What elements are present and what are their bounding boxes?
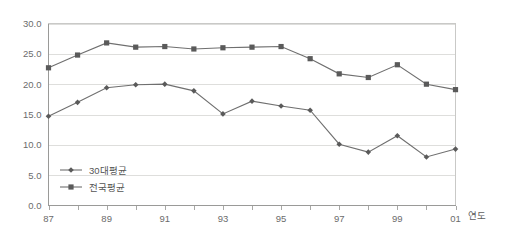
data-point-marker: [366, 75, 371, 80]
data-point-marker: [162, 44, 167, 49]
data-series: [46, 40, 459, 159]
data-point-marker: [249, 45, 254, 50]
data-point-marker: [337, 71, 342, 76]
y-tick-label: 10.0: [23, 139, 42, 150]
legend-marker-diamond: [68, 167, 74, 173]
chart-legend: 30대평균전국평균: [60, 165, 127, 193]
data-point-marker: [133, 82, 139, 88]
data-point-marker: [424, 82, 429, 87]
data-point-marker: [308, 56, 313, 61]
x-tick-label: 91: [159, 213, 170, 224]
data-point-marker: [453, 146, 459, 152]
x-axis-title: 연도: [468, 210, 486, 221]
data-point-marker: [395, 62, 400, 67]
data-point-marker: [75, 52, 80, 57]
data-point-marker: [133, 45, 138, 50]
chart-canvas: 0.05.010.015.020.025.030.0 8789919395979…: [0, 0, 509, 244]
x-tick-label: 97: [334, 213, 345, 224]
legend-label: 전국평균: [89, 182, 125, 193]
series-1: [46, 81, 459, 159]
data-point-marker: [249, 98, 255, 104]
data-point-marker: [278, 103, 284, 109]
legend-item-1: 30대평균: [60, 165, 127, 176]
y-tick-label: 20.0: [23, 79, 42, 90]
series-line: [49, 43, 456, 90]
legend-label: 30대평균: [89, 165, 127, 176]
plot-area-border: [49, 24, 456, 206]
line-chart: 0.05.010.015.020.025.030.0 8789919395979…: [0, 0, 509, 244]
legend-item-2: 전국평균: [60, 182, 125, 193]
y-axis-tick-labels: 0.05.010.015.020.025.030.0: [23, 18, 42, 211]
data-point-marker: [162, 81, 168, 87]
x-axis-tick-labels: 8789919395979901: [43, 213, 461, 224]
data-point-marker: [191, 46, 196, 51]
data-point-marker: [46, 65, 51, 70]
data-point-marker: [365, 149, 371, 155]
x-tick-label: 89: [101, 213, 112, 224]
x-tick-label: 95: [276, 213, 287, 224]
y-tick-label: 15.0: [23, 109, 42, 120]
data-point-marker: [453, 87, 458, 92]
data-point-marker: [220, 45, 225, 50]
x-tick-label: 87: [43, 213, 54, 224]
x-tick-label: 99: [392, 213, 403, 224]
data-point-marker: [278, 44, 283, 49]
series-line: [49, 84, 456, 157]
x-axis-tick-marks: [50, 206, 457, 210]
y-tick-label: 30.0: [23, 18, 42, 29]
x-tick-label: 01: [450, 213, 461, 224]
data-point-marker: [104, 85, 110, 91]
data-point-marker: [104, 40, 109, 45]
data-point-marker: [75, 100, 81, 106]
data-point-marker: [46, 114, 52, 120]
y-tick-label: 5.0: [28, 170, 41, 181]
y-tick-label: 0.0: [28, 200, 41, 211]
plot-frame: [49, 24, 456, 206]
x-tick-label: 93: [218, 213, 229, 224]
legend-marker-square: [68, 184, 73, 189]
y-tick-label: 25.0: [23, 48, 42, 59]
